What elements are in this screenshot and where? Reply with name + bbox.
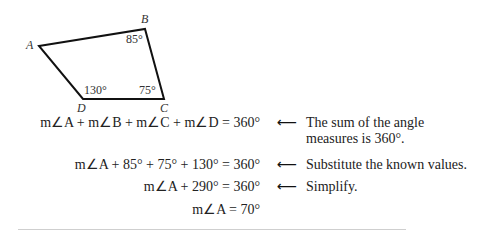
vertex-label-b: B — [141, 12, 148, 27]
arrow-left-icon: ⟵ — [277, 114, 297, 130]
arrow-left-icon: ⟵ — [277, 178, 297, 194]
divider-rule — [18, 229, 406, 230]
equation-step-2: m∠A + 85° + 75° + 130° = 360° — [75, 156, 260, 173]
vertex-label-a: A — [26, 38, 33, 53]
equation-step-3: m∠A + 290° = 360° — [144, 178, 260, 195]
arrow-left-icon: ⟵ — [277, 156, 297, 172]
note-step-3: Simplify. — [306, 179, 358, 195]
angle-b-measure: 85° — [126, 32, 143, 47]
angle-d-measure: 130° — [84, 83, 107, 98]
equation-step-1: m∠A + m∠B + m∠C + m∠D = 360° — [40, 114, 260, 131]
angle-c-measure: 75° — [139, 83, 156, 98]
quadrilateral-figure — [0, 0, 200, 120]
note-step-1-line-2: measures is 360°. — [306, 131, 424, 147]
note-step-1-line-1: The sum of the angle — [306, 115, 424, 131]
note-step-2: Substitute the known values. — [306, 157, 467, 173]
note-step-1: The sum of the angle measures is 360°. — [306, 115, 424, 147]
equation-step-4: m∠A = 70° — [192, 201, 260, 218]
